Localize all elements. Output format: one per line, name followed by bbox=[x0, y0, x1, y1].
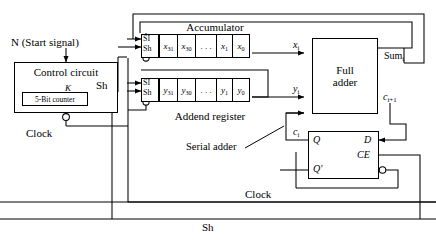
addend-register-title: Addend register bbox=[155, 110, 265, 123]
addend-cell: y1 bbox=[216, 78, 233, 102]
serial-adder-annotation: Serial adder bbox=[186, 142, 236, 153]
full-adder-input-ci-label: ci bbox=[293, 127, 299, 137]
clock-bus-label: Clock bbox=[245, 189, 271, 200]
control-clock-label: Clock bbox=[26, 128, 52, 139]
flipflop-ce-label: CE bbox=[357, 150, 370, 160]
flipflop-q-label: Q bbox=[313, 135, 320, 145]
full-adder-output-carry-label: ci+1 bbox=[383, 92, 397, 102]
accumulator-cell: x0 bbox=[232, 34, 250, 58]
full-adder-title-line1: Full bbox=[312, 64, 378, 76]
five-bit-counter-block[interactable]: 5-Bit counter bbox=[22, 92, 88, 106]
shift-bus-label: Sh bbox=[202, 222, 214, 233]
addend-cell: y31 bbox=[159, 78, 178, 102]
accumulator-cell: x30 bbox=[177, 34, 196, 58]
accumulator-si-pin: SI bbox=[143, 35, 150, 43]
full-adder-title-line2: adder bbox=[312, 76, 378, 88]
addend-si-pin: SI bbox=[143, 79, 150, 87]
sh-signal-label: Sh bbox=[96, 80, 108, 91]
addend-cell-ellipsis: . . . bbox=[195, 78, 217, 102]
accumulator-cell: x1 bbox=[216, 34, 233, 58]
accumulator-title: Accumulator bbox=[160, 21, 270, 34]
addend-cells: y31 y30 . . . y1 y0 bbox=[159, 78, 252, 102]
addend-cell: y30 bbox=[177, 78, 196, 102]
serial-adder-diagram: Control circuit 5-Bit counter K N (Start… bbox=[0, 0, 436, 244]
addend-sh-pin: Sh bbox=[143, 89, 151, 97]
accumulator-sh-pin: Sh bbox=[143, 45, 151, 53]
accumulator-cells: x31 x30 . . . x1 x0 bbox=[159, 34, 252, 58]
counter-enable-label: K bbox=[65, 84, 71, 93]
accumulator-cell-ellipsis: . . . bbox=[195, 34, 217, 58]
addend-cell: y0 bbox=[232, 78, 250, 102]
control-circuit-title: Control circuit bbox=[14, 66, 118, 79]
five-bit-counter-label: 5-Bit counter bbox=[35, 95, 75, 104]
flipflop-qbar-label: Q' bbox=[313, 164, 322, 174]
flipflop-d-label: D bbox=[364, 135, 371, 145]
accumulator-cell: x31 bbox=[159, 34, 178, 58]
full-adder-input-yi-label: yi bbox=[293, 84, 299, 94]
full-adder-output-sum-label: Sumi bbox=[384, 51, 404, 61]
full-adder-input-xi-label: xi bbox=[293, 40, 299, 50]
start-signal-label: N (Start signal) bbox=[11, 37, 79, 48]
